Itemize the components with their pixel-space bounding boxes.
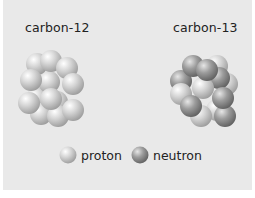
legend-neutron: neutron — [131, 146, 202, 164]
diagram-panel: carbon-12 carbon-13 — [3, 0, 252, 190]
neutron-icon — [131, 146, 149, 164]
legend-neutron-label: neutron — [153, 148, 202, 163]
carbon-13-nucleus — [161, 48, 245, 134]
legend-proton: proton — [59, 146, 122, 164]
proton-icon — [59, 146, 77, 164]
carbon-12-nucleus — [11, 48, 91, 132]
carbon-12-label: carbon-12 — [25, 20, 90, 35]
legend-proton-label: proton — [81, 148, 122, 163]
legend: proton neutron — [3, 146, 252, 176]
carbon-13-label: carbon-13 — [173, 20, 238, 35]
